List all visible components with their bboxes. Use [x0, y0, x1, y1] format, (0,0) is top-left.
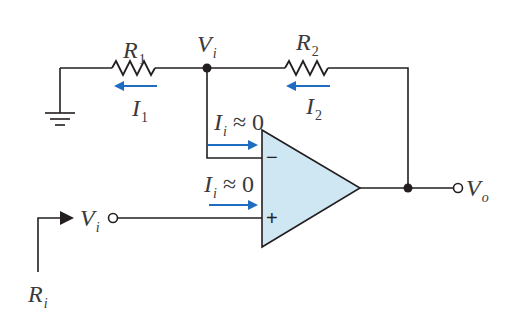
ground-symbol — [45, 68, 75, 125]
label-vi-input: Vi — [80, 206, 100, 230]
node-vi-junction — [203, 64, 212, 73]
label-ri: Ri — [28, 282, 48, 306]
opamp-noninverting-sign: + — [266, 208, 278, 228]
label-ii-inverting: Ii≈ 0 — [214, 110, 264, 134]
label-ii-noninverting: Ii≈ 0 — [204, 172, 254, 196]
node-output-junction — [404, 184, 413, 193]
wire-feedback — [328, 68, 408, 188]
label-i2: I2 — [306, 94, 322, 118]
label-r1: R1 — [123, 38, 146, 62]
label-r2: R2 — [296, 30, 319, 54]
label-i1: I1 — [132, 96, 148, 120]
input-terminal-vi — [109, 214, 118, 223]
output-terminal-vo — [454, 184, 463, 193]
ri-arrow-icon — [38, 218, 72, 272]
resistor-r2 — [285, 61, 328, 75]
circuit-diagram — [0, 0, 515, 328]
label-vo-output: Vo — [466, 176, 489, 200]
label-vi-node: Vi — [197, 32, 217, 56]
opamp-inverting-sign: − — [266, 147, 278, 167]
resistor-r1 — [112, 61, 155, 75]
